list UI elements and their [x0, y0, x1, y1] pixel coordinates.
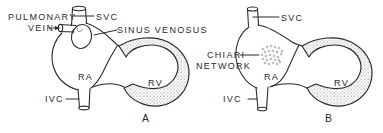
ra-outline-top-right-a	[86, 23, 119, 46]
label-pulmonary-vein-line1: PULMONARY	[8, 12, 77, 22]
rv-loop-band-b	[302, 38, 372, 106]
label-ra-b: RA	[264, 72, 279, 82]
label-rv-b: RV	[334, 78, 349, 88]
label-sinus-venosus: SINUS VENOSUS	[117, 25, 208, 35]
ra-rv-bottom-connector-b	[272, 84, 307, 88]
label-ivc-b: IVC	[223, 94, 242, 104]
ra-rv-bottom-connector-a	[93, 84, 124, 87]
label-svc-b: SVC	[281, 13, 303, 23]
sinus-venosus-oval	[69, 23, 94, 51]
heart-diagram-svg: PULMONARY VEIN SVC SINUS VENOSUS RA RV I…	[0, 0, 383, 133]
sinus-venosus-ostium-mark	[77, 28, 82, 32]
label-chiari-line2: NETWORK	[196, 61, 251, 71]
panel-letter-b: B	[325, 112, 332, 124]
chiari-network-dots	[261, 45, 283, 65]
label-ivc-a: IVC	[45, 94, 64, 104]
label-pulmonary-vein-line2: VEIN	[28, 23, 54, 33]
label-chiari-line1: CHIARI	[207, 50, 245, 60]
label-ra-a: RA	[78, 72, 93, 82]
ivc-tube-a	[78, 89, 90, 110]
ra-outline-top-right-b	[258, 25, 302, 46]
panel-letter-a: A	[142, 112, 149, 124]
rv-loop-band-a	[119, 38, 189, 106]
panel-a: PULMONARY VEIN SVC SINUS VENOSUS RA RV I…	[8, 6, 208, 124]
ivc-tube-b	[256, 87, 268, 111]
ra-right-boundary-a	[91, 46, 117, 88]
ra-outline-left-a	[52, 33, 78, 90]
label-svc-a: SVC	[96, 12, 118, 22]
figure-canvas: PULMONARY VEIN SVC SINUS VENOSUS RA RV I…	[0, 0, 383, 133]
label-rv-a: RV	[148, 78, 163, 88]
panel-b: SVC CHIARI NETWORK RA RV IVC B	[196, 7, 372, 124]
